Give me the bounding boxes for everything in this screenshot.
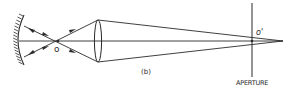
label-aperture: APERTURE: [236, 80, 268, 87]
figure-caption: (b): [141, 69, 151, 76]
object-point-o: [57, 40, 60, 43]
image-point-oprime: [251, 40, 254, 43]
concave-mirror-icon: [13, 14, 24, 65]
label-image-point: o': [256, 29, 263, 37]
optics-diagram: o o' (b) APERTURE: [0, 0, 298, 92]
label-object-point: o: [54, 45, 60, 54]
